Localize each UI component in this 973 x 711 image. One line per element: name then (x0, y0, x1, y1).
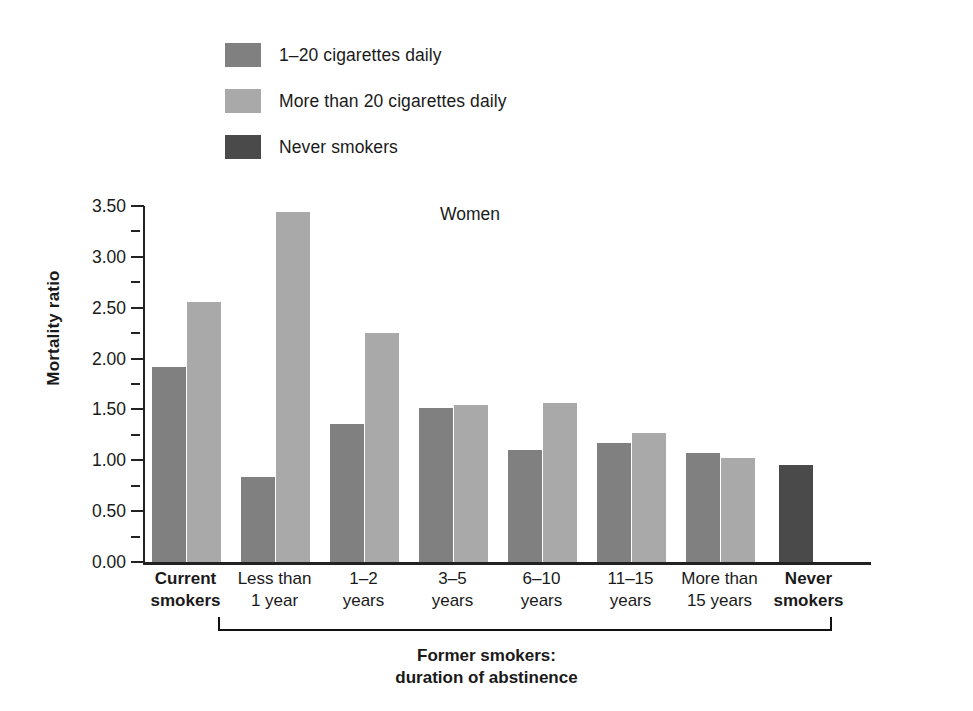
bar (632, 433, 666, 562)
bracket-caption: Former smokers: duration of abstinence (0, 645, 973, 689)
bar (597, 443, 631, 562)
bar (187, 302, 221, 562)
bar (686, 453, 720, 562)
bar (241, 477, 275, 562)
bar (454, 405, 488, 562)
bar (508, 450, 542, 562)
bar (419, 408, 453, 562)
bracket-caption-line2: duration of abstinence (0, 667, 973, 689)
bracket-caption-line1: Former smokers: (0, 645, 973, 667)
bar (330, 424, 364, 562)
bar (152, 367, 186, 562)
bar (543, 403, 577, 562)
x-axis-label: Neversmokers (753, 568, 864, 612)
x-axis-label-line: Never (753, 568, 864, 590)
chart-figure: 1–20 cigarettes daily More than 20 cigar… (0, 0, 973, 711)
x-axis-label-line: smokers (753, 590, 864, 612)
bar (276, 212, 310, 562)
bar (365, 333, 399, 562)
plot-area: Mortality ratio Women 0.000.501.001.502.… (0, 0, 973, 711)
bar (721, 458, 755, 562)
bar (779, 465, 813, 562)
former-smokers-bracket (218, 617, 832, 631)
